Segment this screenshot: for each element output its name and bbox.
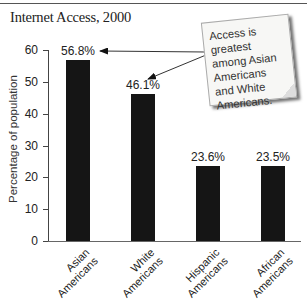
annotation-note: Access is greatest among Asian Americans… <box>201 14 297 107</box>
page-curl-icon <box>281 82 296 97</box>
annotation-text: Access is greatest among Asian Americans… <box>209 25 278 111</box>
